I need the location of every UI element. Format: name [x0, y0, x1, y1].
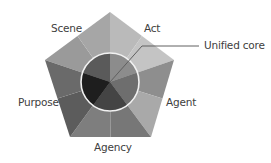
label-unified-core: Unified core: [204, 40, 265, 51]
label-agency: Agency: [94, 142, 132, 153]
label-act: Act: [144, 23, 160, 34]
label-scene: Scene: [51, 23, 82, 34]
label-agent: Agent: [166, 97, 196, 108]
pentad-diagram: [0, 0, 271, 163]
label-purpose: Purpose: [18, 97, 59, 108]
